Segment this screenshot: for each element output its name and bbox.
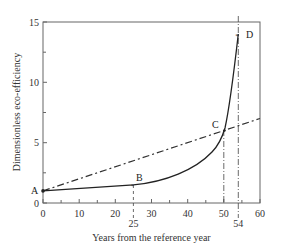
y-axis-title: Dimensionless eco-efficiency xyxy=(11,53,22,171)
x-tick-label-54: 54 xyxy=(233,218,243,229)
y-tick-label-0: 0 xyxy=(34,198,39,209)
y-tick-label-15: 15 xyxy=(29,17,39,28)
marker-a xyxy=(41,189,45,193)
marker-d: * xyxy=(235,32,239,40)
x-tick-label-40: 40 xyxy=(183,208,193,219)
y-axis-ticks xyxy=(43,22,47,203)
linear-trend-line xyxy=(43,119,260,191)
point-label-c: C xyxy=(212,119,219,130)
x-tick-label-25: 25 xyxy=(128,218,138,229)
x-axis-ticks xyxy=(43,199,260,203)
x-tick-label-60: 60 xyxy=(255,208,265,219)
point-label-d: D xyxy=(246,29,253,40)
y-tick-label-10: 10 xyxy=(29,77,39,88)
marker-c xyxy=(223,129,225,131)
x-tick-label-50: 50 xyxy=(219,208,229,219)
eco-efficiency-curve xyxy=(43,34,238,191)
marker-b: * xyxy=(130,182,134,190)
point-label-a: A xyxy=(31,185,39,196)
point-markers: * * xyxy=(41,32,239,193)
x-tick-label-30: 30 xyxy=(147,208,157,219)
x-tick-label-0: 0 xyxy=(41,208,46,219)
x-axis-title: Years from the reference year xyxy=(92,232,211,243)
y-tick-label-5: 5 xyxy=(34,137,39,148)
eco-efficiency-chart: * * A B C D 0 5 10 15 0 10 20 25 30 40 5… xyxy=(0,0,281,251)
x-tick-label-20: 20 xyxy=(110,208,120,219)
point-label-b: B xyxy=(136,172,143,183)
x-tick-label-10: 10 xyxy=(74,208,84,219)
